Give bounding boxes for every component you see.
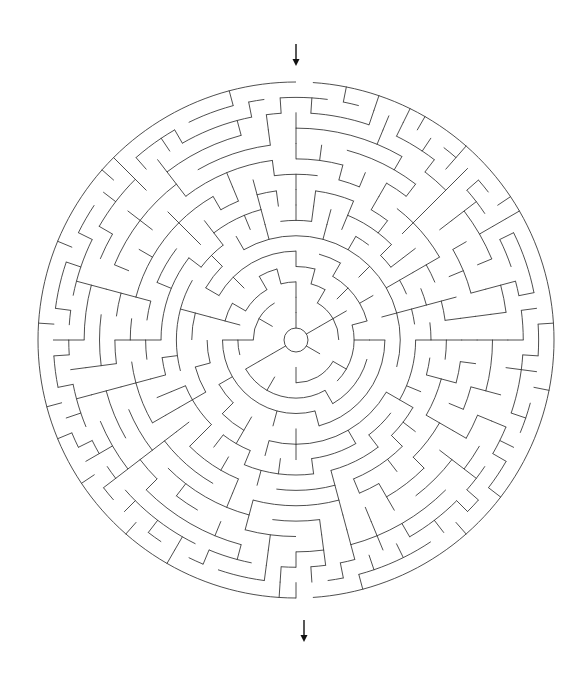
maze-walls — [38, 82, 554, 598]
maze-puzzle — [0, 0, 584, 677]
entrance-arrow-icon — [293, 44, 300, 66]
exit-arrow-icon — [301, 620, 308, 642]
circular-maze — [0, 0, 584, 677]
